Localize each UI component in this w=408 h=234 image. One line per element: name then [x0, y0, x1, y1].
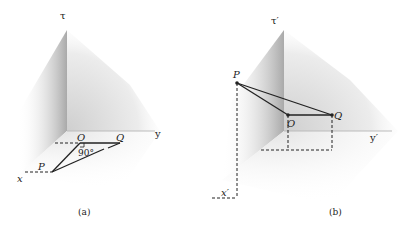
panel-b: τ′ y′ x′ P O Q (b): [212, 15, 398, 217]
point-Q-label: Q: [334, 110, 342, 121]
x-prime-axis-label: x′: [221, 187, 230, 198]
x-axis-label: x: [17, 173, 23, 184]
tau-prime-axis-label: τ′: [271, 15, 280, 26]
point-O: [286, 113, 290, 117]
point-P-label: P: [37, 161, 45, 172]
angle-label: 90°: [78, 148, 94, 158]
y-axis-label: y: [154, 128, 161, 139]
point-O-label: O: [77, 132, 85, 143]
spacetime-diagram: τ y x O Q P 90° (a) τ′ y′ x′ P O Q (b): [0, 0, 408, 234]
point-P: [235, 81, 239, 85]
back-plane: [67, 30, 160, 131]
caption-a: (a): [78, 207, 90, 217]
y-prime-axis-label: y′: [369, 132, 379, 143]
panel-a: τ y x O Q P 90° (a): [17, 10, 161, 217]
point-Q-label: Q: [116, 132, 124, 143]
point-P-label: P: [232, 69, 240, 80]
point-O-label: O: [287, 118, 295, 129]
tau-axis-label: τ: [60, 10, 66, 21]
caption-b: (b): [329, 207, 342, 217]
